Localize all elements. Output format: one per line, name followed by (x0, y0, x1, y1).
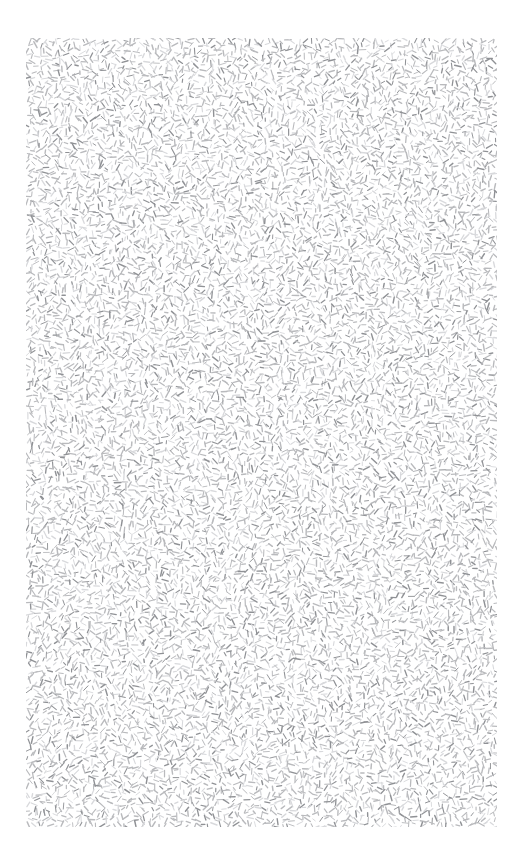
stroke-texture-svg (26, 38, 497, 827)
image-canvas (0, 0, 522, 862)
stroke-texture-field (26, 38, 497, 827)
